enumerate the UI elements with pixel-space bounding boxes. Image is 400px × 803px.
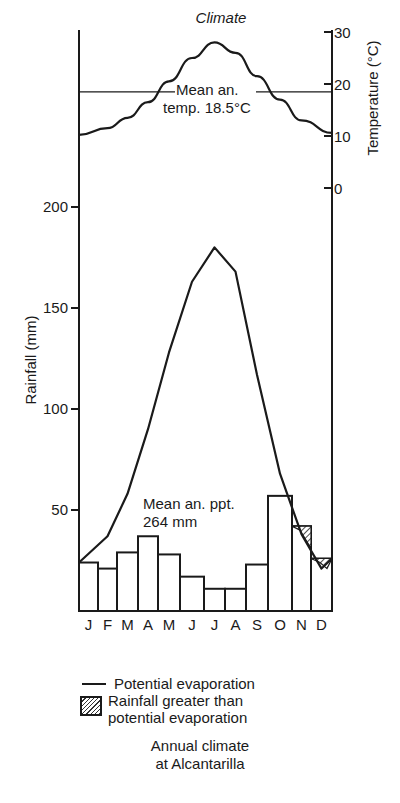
legend-label-line1: Rainfall greater than: [108, 692, 243, 709]
rainfall-bar: [268, 496, 292, 611]
data-lines: [79, 42, 332, 568]
axis-labels: 501001502000102030Rainfall (mm)Temperatu…: [22, 24, 381, 633]
left-tick-label: 100: [43, 400, 68, 417]
month-label: F: [103, 616, 112, 633]
rainfall-bar: [204, 589, 225, 611]
caption: Annual climate at Alcantarilla: [0, 737, 400, 773]
chart-title: Climate: [196, 9, 247, 26]
legend-label-surplus: Rainfall greater than potential evaporat…: [108, 692, 247, 726]
right-tick-label: 0: [334, 180, 342, 197]
rainfall-bar: [311, 558, 332, 611]
rainfall-bar: [98, 569, 117, 611]
legend-label-evaporation: Potential evaporation: [114, 675, 255, 692]
mean-temp-annotation: Mean an.temp. 18.5°C: [163, 81, 251, 116]
rainfall-bar: [246, 565, 268, 611]
month-label: J: [188, 616, 196, 633]
left-tick-label: 200: [43, 198, 68, 215]
month-label: A: [230, 616, 240, 633]
caption-line2: at Alcantarilla: [155, 755, 244, 772]
rainfall-bar: [79, 563, 98, 611]
rainfall-bar: [225, 589, 246, 611]
left-tick-label: 50: [51, 501, 68, 518]
left-axis-label: Rainfall (mm): [22, 315, 39, 404]
rainfall-bar: [117, 552, 138, 611]
rainfall-bar: [138, 536, 158, 611]
month-label: D: [316, 616, 327, 633]
mean-ppt-annotation: Mean an. ppt.264 mm: [143, 495, 235, 530]
caption-line1: Annual climate: [151, 737, 249, 754]
month-label: M: [163, 616, 176, 633]
line-swatch-icon: [82, 683, 106, 685]
right-tick-label: 10: [334, 128, 351, 145]
right-axis-label: Temperature (°C): [364, 40, 381, 155]
evaporation-line: [79, 247, 332, 568]
month-label: S: [252, 616, 262, 633]
month-label: J: [211, 616, 219, 633]
month-label: N: [296, 616, 307, 633]
legend: Potential evaporation Rainfall greater t…: [80, 675, 255, 726]
legend-item-evaporation: Potential evaporation: [80, 675, 255, 692]
right-tick-label: 30: [334, 24, 351, 41]
left-tick-label: 150: [43, 299, 68, 316]
month-label: J: [85, 616, 93, 633]
month-label: A: [143, 616, 153, 633]
rainfall-bar: [158, 554, 180, 611]
right-tick-label: 20: [334, 76, 351, 93]
month-label: O: [274, 616, 286, 633]
legend-label-line2: potential evaporation: [108, 709, 247, 726]
rainfall-bar: [180, 577, 204, 611]
hatch-swatch-icon: [80, 696, 102, 716]
legend-item-surplus: Rainfall greater than potential evaporat…: [80, 692, 255, 726]
month-label: M: [121, 616, 134, 633]
